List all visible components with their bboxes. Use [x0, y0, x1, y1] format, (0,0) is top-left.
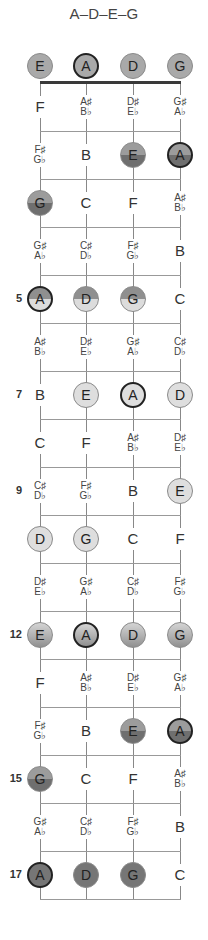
natural-label: C: [35, 432, 46, 454]
note-marker: D: [73, 286, 99, 312]
note-cell: F: [23, 90, 57, 124]
fret-line: [40, 371, 181, 372]
note-marker: G: [120, 862, 146, 888]
fret-line: [40, 131, 181, 132]
natural-label: F: [35, 672, 44, 694]
accidental-label: G♯A♭: [34, 815, 47, 839]
note-cell: A: [116, 378, 150, 412]
note-cell: C: [116, 522, 150, 556]
note-cell: A♯B♭: [163, 762, 197, 796]
accidental-label: F♯G♭: [127, 815, 140, 839]
accidental-label: G♯A♭: [174, 95, 187, 119]
accidental-label: A♯B♭: [80, 671, 92, 695]
note-cell: D: [163, 378, 197, 412]
note-marker: E: [167, 478, 193, 504]
fret-line: [40, 467, 181, 468]
fret-line: [40, 851, 181, 852]
natural-label: B: [175, 240, 185, 262]
note-cell: A♯B♭: [116, 426, 150, 460]
note-cell: G: [163, 49, 197, 83]
note-cell: A♯B♭: [69, 666, 103, 700]
accidental-label: F♯G♭: [34, 143, 47, 167]
note-cell: D♯E♭: [163, 426, 197, 460]
note-marker: E: [27, 53, 53, 79]
note-marker: E: [27, 622, 53, 648]
fret-line: [40, 323, 181, 324]
natural-label: B: [175, 816, 185, 838]
natural-label: B: [81, 720, 91, 742]
root-note-marker: A: [27, 286, 53, 312]
note-marker: E: [120, 142, 146, 168]
note-marker: D: [120, 53, 146, 79]
fret-number: 15: [0, 772, 22, 784]
fret-number: 12: [0, 628, 22, 640]
natural-label: B: [128, 480, 138, 502]
note-marker: D: [27, 526, 53, 552]
note-marker: D: [167, 382, 193, 408]
note-cell: E: [116, 714, 150, 748]
accidental-label: A♯B♭: [174, 191, 186, 215]
accidental-label: F♯G♭: [174, 575, 187, 599]
natural-label: C: [128, 528, 139, 550]
note-cell: F♯G♭: [23, 714, 57, 748]
root-note-marker: A: [120, 382, 146, 408]
note-cell: F♯G♭: [116, 810, 150, 844]
accidental-label: F♯G♭: [34, 719, 47, 743]
note-cell: F♯G♭: [23, 138, 57, 172]
note-cell: A: [163, 138, 197, 172]
accidental-label: C♯D♭: [174, 335, 186, 359]
fret-line: [40, 707, 181, 708]
accidental-label: A♯B♭: [174, 767, 186, 791]
fret-line: [40, 803, 181, 804]
natural-label: F: [35, 96, 44, 118]
note-cell: G♯A♭: [163, 666, 197, 700]
fret-line: [40, 179, 181, 180]
natural-label: F: [175, 528, 184, 550]
fret-line: [40, 419, 181, 420]
fret-number: 17: [0, 868, 22, 880]
accidental-label: A♯B♭: [80, 95, 92, 119]
note-cell: D♯E♭: [116, 90, 150, 124]
note-marker: G: [167, 53, 193, 79]
accidental-label: G♯A♭: [127, 335, 140, 359]
note-cell: A♯B♭: [23, 330, 57, 364]
note-cell: C: [163, 282, 197, 316]
note-marker: G: [167, 622, 193, 648]
note-cell: D♯E♭: [116, 666, 150, 700]
natural-label: C: [175, 864, 186, 886]
note-cell: A: [69, 49, 103, 83]
note-cell: D♯E♭: [69, 330, 103, 364]
note-cell: G: [69, 522, 103, 556]
natural-label: C: [81, 192, 92, 214]
natural-label: F: [81, 432, 90, 454]
note-cell: D: [116, 618, 150, 652]
note-cell: F: [23, 666, 57, 700]
note-marker: E: [120, 718, 146, 744]
note-cell: A: [23, 858, 57, 892]
natural-label: F: [128, 192, 137, 214]
fret-number: 9: [0, 484, 22, 496]
fret-line: [40, 563, 181, 564]
accidental-label: F♯G♭: [127, 239, 140, 263]
accidental-label: A♯B♭: [127, 431, 139, 455]
accidental-label: D♯E♭: [34, 575, 46, 599]
natural-label: C: [175, 288, 186, 310]
accidental-label: F♯G♭: [80, 479, 93, 503]
fret-line: [40, 899, 181, 900]
note-cell: C♯D♭: [163, 330, 197, 364]
note-cell: C: [69, 762, 103, 796]
note-cell: F: [116, 186, 150, 220]
note-cell: G♯A♭: [116, 330, 150, 364]
note-cell: E: [116, 138, 150, 172]
note-cell: E: [163, 474, 197, 508]
fret-line: [40, 659, 181, 660]
note-cell: G: [23, 186, 57, 220]
note-cell: C♯D♭: [23, 474, 57, 508]
note-cell: A: [163, 714, 197, 748]
fret-line: [40, 611, 181, 612]
note-cell: A: [23, 282, 57, 316]
note-marker: G: [120, 286, 146, 312]
note-cell: G♯A♭: [23, 810, 57, 844]
note-cell: B: [69, 138, 103, 172]
note-cell: F: [163, 522, 197, 556]
